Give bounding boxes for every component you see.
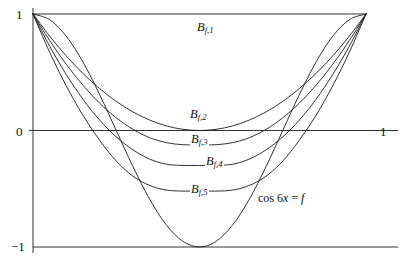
curve-label-bf2: Bf,2 [189,108,208,122]
plot-canvas [0,0,402,262]
bernstein-approximation-figure: 1 0 −1 1 Bf,1 Bf,2 Bf,3 Bf,4 Bf,5 cos 6x… [0,0,402,262]
y-axis-tick-bottom: −1 [11,240,25,253]
y-axis-tick-top: 1 [16,8,23,21]
x-axis-tick-right: 1 [380,125,387,138]
curve-b-f-5 [33,14,366,191]
function-label-cos6x: cos 6x = f [258,192,304,204]
curve-label-bf5: Bf,5 [190,183,209,197]
curve-label-bf4: Bf,4 [205,155,224,169]
curve-label-bf3: Bf,3 [190,133,209,147]
curve-label-bf1: Bf,1 [196,21,215,35]
y-axis-tick-zero: 0 [16,125,23,138]
